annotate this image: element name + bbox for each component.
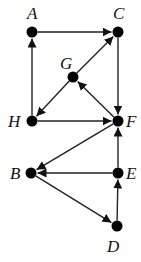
edge-G-H [36, 81, 69, 116]
edge-F-B [37, 124, 114, 170]
node-label-A: A [26, 4, 38, 23]
node-E [113, 168, 124, 179]
node-label-C: C [113, 4, 125, 23]
node-D [112, 221, 123, 232]
edges [32, 32, 118, 223]
node-A [27, 27, 38, 38]
node-label-D: D [106, 237, 120, 256]
node-H [27, 116, 38, 127]
edge-B-D [36, 176, 112, 223]
directed-graph: ACGHFBED [0, 0, 141, 262]
edge-D-E [117, 179, 118, 220]
edge-G-C [77, 37, 114, 74]
node-B [26, 168, 37, 179]
node-G [68, 72, 79, 83]
nodes [26, 27, 124, 232]
node-C [113, 27, 124, 38]
node-label-G: G [60, 54, 72, 73]
node-label-B: B [10, 164, 21, 183]
node-label-E: E [125, 164, 137, 183]
node-F [113, 116, 124, 127]
node-label-F: F [125, 112, 137, 131]
node-label-H: H [7, 112, 22, 131]
edge-F-G [78, 82, 114, 118]
